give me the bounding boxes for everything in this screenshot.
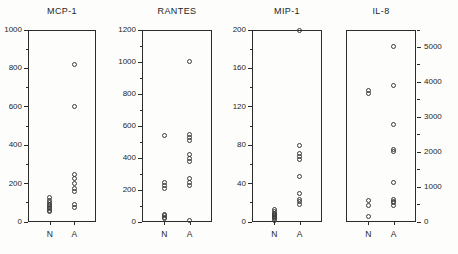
- x-category-label: A: [59, 230, 89, 239]
- y-tick-major: [417, 117, 421, 118]
- data-point: [72, 62, 77, 67]
- y-tick-label: 200: [0, 180, 22, 188]
- y-tick-label: 0: [102, 218, 136, 226]
- y-tick-major: [138, 62, 142, 63]
- x-category-label: A: [285, 230, 315, 239]
- plot-area: [142, 30, 212, 222]
- data-point: [391, 147, 396, 152]
- y-tick-minor: [417, 99, 420, 100]
- y-tick-label: 80: [212, 141, 246, 149]
- y-tick-major: [24, 222, 28, 223]
- y-tick-major: [24, 183, 28, 184]
- y-tick-minor: [26, 202, 29, 203]
- data-point: [297, 191, 302, 196]
- plot-area: [252, 30, 322, 222]
- y-tick-major: [138, 222, 142, 223]
- y-tick-minor: [26, 126, 29, 127]
- panel-title: MIP-1: [252, 6, 322, 16]
- y-tick-major: [248, 30, 252, 31]
- y-tick-label: 600: [102, 122, 136, 130]
- y-tick-major: [248, 183, 252, 184]
- x-tick: [368, 222, 369, 225]
- x-tick: [164, 222, 165, 225]
- y-tick-minor: [417, 169, 420, 170]
- y-tick-label: 800: [102, 90, 136, 98]
- y-tick-major: [138, 190, 142, 191]
- y-tick-minor: [26, 87, 29, 88]
- data-point: [47, 195, 52, 200]
- y-tick-major: [248, 145, 252, 146]
- y-tick-label: 1000: [0, 26, 22, 34]
- y-tick-major: [417, 82, 421, 83]
- y-tick-label: 0: [212, 218, 246, 226]
- y-tick-label: 40: [212, 180, 246, 188]
- y-tick-minor: [140, 206, 143, 207]
- y-tick-label: 5000: [424, 43, 442, 51]
- y-tick-label: 400: [0, 141, 22, 149]
- data-point: [72, 186, 77, 191]
- y-tick-label: 1000: [102, 58, 136, 66]
- y-tick-label: 600: [0, 103, 22, 111]
- data-point: [297, 143, 302, 148]
- panel-title: MCP-1: [28, 6, 96, 16]
- y-tick-major: [417, 47, 421, 48]
- data-point: [187, 132, 192, 137]
- x-tick: [74, 222, 75, 225]
- data-point: [72, 202, 77, 207]
- y-tick-minor: [250, 49, 253, 50]
- panel-title: RANTES: [142, 6, 212, 16]
- data-point: [297, 28, 302, 33]
- x-category-label: A: [379, 230, 409, 239]
- y-tick-minor: [250, 164, 253, 165]
- y-tick-minor: [250, 87, 253, 88]
- y-tick-label: 400: [102, 154, 136, 162]
- y-tick-major: [138, 30, 142, 31]
- x-tick: [394, 222, 395, 225]
- data-point: [366, 203, 371, 208]
- y-tick-minor: [417, 134, 420, 135]
- y-tick-label: 160: [212, 64, 246, 72]
- y-tick-minor: [250, 202, 253, 203]
- y-tick-label: 0: [424, 218, 428, 226]
- y-tick-major: [138, 94, 142, 95]
- x-category-label: A: [175, 230, 205, 239]
- plot-area: [28, 30, 96, 222]
- y-tick-minor: [26, 164, 29, 165]
- y-tick-major: [248, 106, 252, 107]
- plot-area: [346, 30, 416, 222]
- panel-il-8: IL-8010002000300040005000NA: [340, 0, 456, 254]
- data-point: [162, 212, 167, 217]
- y-tick-label: 0: [0, 218, 22, 226]
- y-tick-label: 800: [0, 64, 22, 72]
- y-tick-label: 1000: [424, 183, 442, 191]
- y-tick-major: [24, 30, 28, 31]
- x-tick: [50, 222, 51, 225]
- y-tick-label: 200: [212, 26, 246, 34]
- x-tick: [300, 222, 301, 225]
- y-tick-label: 1200: [102, 26, 136, 34]
- y-tick-label: 120: [212, 103, 246, 111]
- y-tick-label: 2000: [424, 148, 442, 156]
- y-tick-minor: [140, 78, 143, 79]
- y-tick-label: 4000: [424, 78, 442, 86]
- y-tick-label: 3000: [424, 113, 442, 121]
- y-tick-minor: [140, 110, 143, 111]
- y-tick-minor: [417, 30, 420, 31]
- data-point: [366, 198, 371, 203]
- y-tick-major: [24, 145, 28, 146]
- chemokine-scatter-figure: MCP-102004006008001000NARANTES0200400600…: [0, 0, 458, 254]
- data-point: [72, 181, 77, 186]
- data-point: [187, 59, 192, 64]
- y-tick-minor: [417, 64, 420, 65]
- y-tick-major: [248, 222, 252, 223]
- panel-title: IL-8: [346, 6, 416, 16]
- y-tick-major: [417, 222, 421, 223]
- y-tick-major: [417, 152, 421, 153]
- data-point: [187, 218, 192, 223]
- y-tick-minor: [26, 49, 29, 50]
- y-tick-major: [24, 106, 28, 107]
- y-tick-minor: [140, 174, 143, 175]
- y-tick-minor: [140, 46, 143, 47]
- y-tick-label: 200: [102, 186, 136, 194]
- data-point: [272, 207, 277, 212]
